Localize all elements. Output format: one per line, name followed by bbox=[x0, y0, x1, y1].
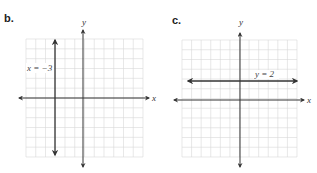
panel-c-axes bbox=[174, 33, 304, 167]
panel-b-equation: x = −3 bbox=[26, 63, 53, 73]
panel-c-x-label: x bbox=[306, 95, 311, 105]
panel-b-x-label: x bbox=[151, 93, 156, 103]
panel-c-y-label: y bbox=[238, 17, 243, 27]
panel-b-y-label: y bbox=[81, 17, 86, 27]
graphs: x y x = −3 x y y = 2 bbox=[0, 0, 317, 173]
panel-b-axes bbox=[19, 30, 149, 167]
panel-c-equation: y = 2 bbox=[254, 69, 275, 79]
